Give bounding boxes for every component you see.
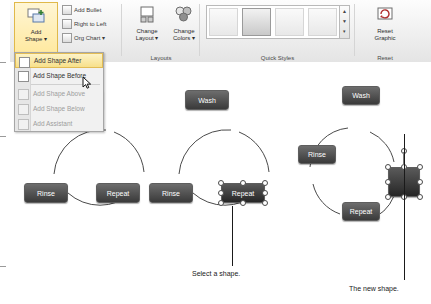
org-chart-label: Org Chart ▾	[74, 34, 105, 41]
add-shape-above-icon	[18, 89, 29, 100]
node-rinse-middle[interactable]: Rinse	[149, 183, 193, 203]
node-repeat-right-label: Repeat	[350, 208, 373, 215]
menu-item-add-shape-before-label: Add Shape Before	[33, 72, 86, 79]
group-label-reset: Reset	[355, 55, 415, 61]
margin-mark-bottom	[0, 266, 6, 267]
node-wash-right-label: Wash	[352, 92, 370, 99]
node-repeat-left[interactable]: Repeat	[96, 183, 140, 203]
quick-styles-scrollbar[interactable]: ▲ ▼ ▾	[339, 5, 350, 39]
org-chart-button[interactable]: Org Chart ▾	[60, 32, 118, 43]
menu-item-add-assistant[interactable]: Add Assistant	[15, 116, 103, 131]
group-label-layouts: Layouts	[122, 55, 200, 61]
add-shape-before-icon	[18, 71, 29, 82]
quick-styles-scroll-up-icon[interactable]: ▲	[340, 6, 349, 16]
right-to-left-label: Right to Left	[74, 21, 106, 27]
group-label-quick-styles: Quick Styles	[200, 55, 355, 61]
quick-style-thumb-2[interactable]	[242, 8, 271, 36]
node-repeat-right[interactable]: Repeat	[342, 202, 380, 221]
ribbon-group-layouts: Change Layout ▾ Change Colors ▾ Layouts	[122, 0, 200, 62]
caption-the-new-shape: The new shape.	[349, 285, 399, 292]
quick-styles-scroll-down-icon[interactable]: ▼	[340, 16, 349, 26]
reset-graphic-label-2: Graphic	[363, 35, 407, 42]
reset-graphic-button[interactable]: Reset Graphic	[363, 2, 407, 54]
leader-line-select-a-shape	[232, 206, 233, 266]
ribbon-group-reset: Reset Graphic Reset	[355, 0, 415, 62]
margin-mark-middle	[0, 136, 6, 137]
node-rinse-middle-label: Rinse	[162, 190, 180, 197]
margin-mark-top	[0, 62, 6, 63]
right-to-left-button[interactable]: Right to Left	[60, 18, 118, 29]
add-shape-below-icon	[18, 104, 29, 115]
right-to-left-icon	[62, 19, 72, 29]
node-repeat-middle-label: Repeat	[232, 190, 255, 197]
menu-item-add-shape-below-label: Add Shape Below	[33, 105, 85, 112]
quick-styles-gallery[interactable]	[206, 5, 340, 39]
add-shape-label-1: Add	[15, 29, 57, 36]
menu-item-add-shape-after[interactable]: Add Shape After	[15, 53, 103, 68]
node-wash-right[interactable]: Wash	[342, 86, 380, 105]
node-wash-middle-label: Wash	[198, 97, 216, 104]
add-assistant-icon	[18, 119, 29, 130]
ribbon-group-quick-styles: ▲ ▼ ▾ Quick Styles	[200, 0, 355, 62]
quick-style-thumb-4[interactable]	[308, 8, 337, 36]
menu-item-add-assistant-label: Add Assistant	[33, 120, 72, 127]
node-rinse-left[interactable]: Rinse	[24, 183, 68, 203]
mouse-cursor-icon	[82, 76, 92, 90]
add-bullet-icon	[62, 5, 72, 15]
add-bullet-label: Add Bullet	[74, 7, 101, 13]
add-shape-dropdown-menu[interactable]: Add Shape After Add Shape Before Add Sha…	[14, 52, 104, 132]
change-colors-icon	[172, 5, 196, 27]
add-shape-label-2: Shape ▾	[15, 36, 57, 43]
quick-style-thumb-3[interactable]	[275, 8, 304, 36]
reset-graphic-label-1: Reset	[363, 28, 407, 35]
add-shape-button[interactable]: Add Shape ▾	[14, 2, 58, 54]
reset-graphic-icon	[373, 5, 397, 27]
change-layout-icon	[135, 5, 159, 27]
quick-styles-more-icon[interactable]: ▾	[340, 26, 349, 36]
menu-item-add-shape-after-label: Add Shape After	[34, 57, 81, 64]
add-shape-after-icon	[19, 57, 30, 68]
node-rinse-left-label: Rinse	[37, 190, 55, 197]
org-chart-icon	[62, 33, 72, 43]
quick-style-thumb-1[interactable]	[209, 8, 238, 36]
node-wash-middle[interactable]: Wash	[185, 90, 229, 110]
leader-line-the-new-shape	[404, 134, 405, 280]
node-rinse-right[interactable]: Rinse	[298, 145, 336, 164]
screenshot-root: Add Shape ▾ Add Bullet Right to Left Org…	[0, 0, 431, 304]
node-rinse-right-label: Rinse	[308, 151, 326, 158]
add-bullet-button[interactable]: Add Bullet	[60, 4, 118, 15]
add-shape-chevron-down-icon[interactable]: ▾	[44, 36, 47, 42]
node-repeat-left-label: Repeat	[107, 190, 130, 197]
add-shape-icon	[24, 6, 48, 28]
menu-item-add-shape-above-label: Add Shape Above	[33, 90, 85, 97]
caption-select-a-shape: Select a shape.	[192, 270, 240, 277]
menu-item-add-shape-below[interactable]: Add Shape Below	[15, 101, 103, 116]
